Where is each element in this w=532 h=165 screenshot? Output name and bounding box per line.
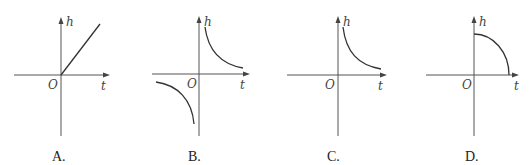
origin-label: O bbox=[325, 78, 335, 92]
option-label-c: C. bbox=[327, 149, 340, 164]
t-label: t bbox=[514, 79, 519, 93]
h-axis-arrow-icon bbox=[59, 17, 64, 24]
graph-d: h t O D. bbox=[426, 15, 519, 164]
t-axis-arrow-icon bbox=[512, 73, 519, 78]
t-axis-arrow-icon bbox=[380, 73, 387, 78]
option-label-d: D. bbox=[465, 149, 479, 164]
h-label: h bbox=[66, 15, 74, 29]
t-label: t bbox=[101, 79, 106, 93]
origin-label: O bbox=[462, 78, 472, 92]
h-axis-arrow-icon bbox=[336, 16, 341, 23]
quarter-arc-curve bbox=[474, 34, 509, 75]
t-axis-arrow-icon bbox=[103, 73, 110, 78]
upper-branch-curve bbox=[205, 27, 243, 68]
graph-c: h t O C. bbox=[287, 15, 387, 164]
option-label-b: B. bbox=[188, 149, 201, 164]
origin-label: O bbox=[48, 78, 58, 92]
decreasing-curve bbox=[343, 27, 381, 69]
graph-a: h t O A. bbox=[14, 15, 110, 164]
h-axis-arrow-icon bbox=[197, 16, 202, 23]
t-label: t bbox=[240, 78, 245, 92]
h-label: h bbox=[479, 15, 487, 29]
h-axis-arrow-icon bbox=[472, 16, 477, 23]
option-graphs: h t O A. h t O B. h t O C. h t O bbox=[0, 0, 532, 165]
graph-b: h t O B. bbox=[152, 15, 250, 164]
origin-label: O bbox=[187, 77, 197, 91]
linear-curve bbox=[61, 24, 100, 75]
t-label: t bbox=[378, 79, 383, 93]
t-axis-arrow-icon bbox=[243, 72, 250, 77]
h-label: h bbox=[204, 15, 212, 29]
option-label-a: A. bbox=[52, 149, 66, 164]
h-label: h bbox=[343, 15, 351, 29]
